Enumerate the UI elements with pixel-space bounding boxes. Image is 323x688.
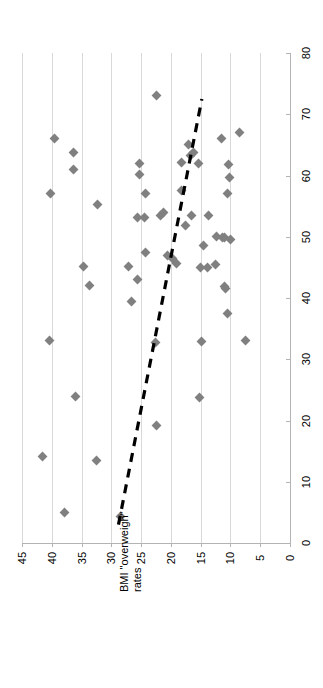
bmi-axis-tick-label: 20	[165, 546, 177, 570]
data-point	[68, 164, 78, 174]
value-axis-tick-label: 80	[300, 41, 312, 65]
value-axis-tick-label: 70	[300, 102, 312, 126]
gridline	[52, 53, 53, 543]
value-axis-tick	[286, 114, 291, 115]
value-axis-tick	[286, 543, 291, 544]
gridline	[230, 53, 231, 543]
value-axis-tick-label: 60	[300, 164, 312, 188]
data-point	[150, 337, 160, 347]
data-point	[181, 221, 191, 231]
value-axis-tick-label: 10	[300, 470, 312, 494]
bmi-axis-line	[22, 543, 290, 544]
bmi-axis-tick-label: 0	[284, 546, 296, 570]
bmi-axis-tick-label: 15	[195, 546, 207, 570]
data-point	[152, 91, 162, 101]
data-point	[91, 455, 101, 465]
gridline	[171, 53, 172, 543]
data-point	[71, 391, 81, 401]
data-point	[135, 158, 145, 168]
data-point	[203, 211, 213, 221]
value-axis-tick	[286, 176, 291, 177]
bmi-axis-tick-label: 5	[254, 546, 266, 570]
data-point	[240, 336, 250, 346]
data-point	[69, 148, 79, 158]
axis-title-line-2: rates	[131, 496, 144, 592]
data-point	[134, 169, 144, 179]
value-axis-tick	[286, 359, 291, 360]
value-axis-tick-label: 30	[300, 347, 312, 371]
scatter-chart: 454035302520151050 01020304050607080 BMI…	[0, 0, 323, 688]
data-point	[194, 158, 204, 168]
gridline	[141, 53, 142, 543]
data-point	[223, 160, 233, 170]
axis-title-line-1: BMI "overweigh"	[118, 511, 130, 592]
value-axis-tick-label: 50	[300, 225, 312, 249]
data-point	[195, 392, 205, 402]
value-axis-tick-label: 20	[300, 409, 312, 433]
data-point	[217, 134, 227, 144]
gridline	[201, 53, 202, 543]
data-point	[127, 296, 137, 306]
data-point	[224, 173, 234, 183]
data-point	[177, 157, 187, 167]
data-point	[46, 189, 56, 199]
plot-area	[22, 53, 290, 543]
data-point	[187, 210, 197, 220]
gridline	[82, 53, 83, 543]
value-axis-tick	[286, 53, 291, 54]
value-axis-tick-label: 40	[300, 286, 312, 310]
data-point	[60, 507, 70, 517]
axis-title: BMI "overweigh"rates	[118, 496, 144, 592]
data-point	[78, 261, 88, 271]
data-point	[93, 199, 103, 209]
data-point	[151, 420, 161, 430]
data-point	[176, 186, 186, 196]
data-point	[172, 259, 182, 269]
data-point	[141, 189, 151, 199]
bmi-axis-tick-label: 30	[105, 546, 117, 570]
value-axis-tick	[286, 421, 291, 422]
data-point	[234, 128, 244, 138]
bmi-axis-tick-label: 40	[46, 546, 58, 570]
data-point	[45, 336, 55, 346]
value-axis-tick	[286, 482, 291, 483]
value-axis-tick	[286, 237, 291, 238]
gridline	[111, 53, 112, 543]
bmi-axis-tick-label: 45	[16, 546, 28, 570]
bmi-axis-tick-label: 10	[224, 546, 236, 570]
data-point	[84, 281, 94, 291]
value-axis-tick-label: 0	[300, 531, 312, 555]
value-axis-tick	[286, 298, 291, 299]
data-point	[197, 337, 207, 347]
plot-left-border	[22, 53, 23, 543]
gridline	[260, 53, 261, 543]
data-point	[38, 451, 48, 461]
bmi-axis-tick-label: 35	[76, 546, 88, 570]
data-point	[123, 261, 133, 271]
